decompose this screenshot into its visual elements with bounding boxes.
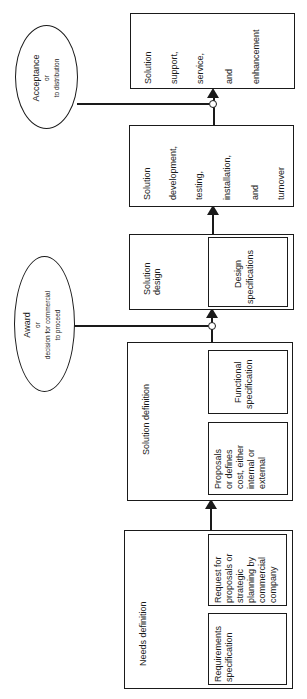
phase-label-line: turnover <box>276 167 287 200</box>
award-detail-line-1: decision for commercial <box>43 281 53 369</box>
sub-box-functional-specification: Functional specification <box>208 350 288 414</box>
sub-box-proposals: Proposals or defines cost, either intern… <box>208 422 288 495</box>
phase-solution-definition: Solution definition Functional specifica… <box>127 342 293 501</box>
phase-label-line: enhancement <box>251 29 262 84</box>
acceptance-junction-node <box>209 100 217 108</box>
phase-label-line: Solution <box>143 51 154 84</box>
phase-label-line: development, <box>168 146 179 200</box>
phase-label-line: design <box>152 268 163 295</box>
sub-box-label-line: cost, either <box>235 445 246 489</box>
phase-label-line: support, <box>169 51 180 84</box>
phase-label-line: and <box>250 185 261 200</box>
sub-box-design-specifications: Design specifications <box>208 237 288 307</box>
sub-box-label-line: strategic <box>235 569 246 603</box>
sub-box-label-line: Design <box>233 260 244 288</box>
sub-box-requirements-specification: Requirements specification <box>208 613 287 685</box>
award-connector-word: or <box>33 281 43 369</box>
phase-label-line: testing, <box>194 171 205 200</box>
award-connector-line <box>74 325 208 327</box>
award-junction-node <box>208 322 216 330</box>
sub-box-label-line: Request for <box>213 556 224 603</box>
sub-box-label-line: or defines <box>224 449 235 489</box>
phase-label-line: and <box>224 69 235 84</box>
sub-box-request-for-proposals: Request for proposals or strategic plann… <box>208 534 287 606</box>
phase-label-line: service, <box>195 53 206 84</box>
phase-label-line: Solution <box>142 167 153 200</box>
edge-design-to-development <box>212 214 214 234</box>
acceptance-connector-line <box>77 103 209 105</box>
award-decision-ellipse: Award or decision for commercial to proc… <box>14 256 75 392</box>
award-title: Award <box>21 281 33 369</box>
sub-box-label-line: Functional <box>233 361 244 403</box>
award-decision-text: Award or decision for commercial to proc… <box>21 281 63 369</box>
sub-box-label-line: Proposals <box>213 449 224 489</box>
sub-box-label-line: Requirements <box>213 626 224 682</box>
sub-box-label-line: proposals or <box>224 553 235 603</box>
edge-needs-to-solution-definition <box>210 508 212 530</box>
sub-box-label-line: specification <box>224 632 235 682</box>
acceptance-connector-word: or <box>42 50 52 106</box>
phase-solution-design: Solution design Design specifications <box>129 234 294 310</box>
sub-box-label-line: specification <box>244 359 255 409</box>
phase-label-line: installation, <box>222 155 233 200</box>
phase-label-line: Solution <box>142 262 153 295</box>
sub-box-label-line: external <box>257 457 268 489</box>
acceptance-detail: to distribution <box>52 50 62 106</box>
sub-box-label-line: company <box>268 566 279 603</box>
phase-solution-development: Solution development, testing, installat… <box>129 125 294 207</box>
phase-solution-support: Solution support, service, and enhanceme… <box>130 13 295 89</box>
sub-box-label-line: specifications <box>245 250 256 304</box>
phase-label: Needs definition <box>138 601 149 666</box>
arrowhead-icon <box>207 88 219 98</box>
acceptance-title: Acceptance <box>30 50 42 106</box>
award-detail-line-2: to proceed <box>53 281 63 369</box>
acceptance-decision-text: Acceptance or to distribution <box>30 50 62 106</box>
phase-label: Solution definition <box>141 384 152 455</box>
sub-box-label-line: internal or <box>246 449 257 489</box>
sub-box-label-line: planning by <box>246 557 257 603</box>
acceptance-decision-ellipse: Acceptance or to distribution <box>15 25 78 129</box>
phase-needs-definition: Needs definition Request for proposals o… <box>124 530 293 689</box>
sub-box-label-line: commercial <box>257 557 268 603</box>
